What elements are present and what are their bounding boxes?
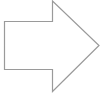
arrow-diagram — [0, 0, 107, 96]
right-arrow-shape — [5, 1, 100, 92]
diagram-canvas — [0, 0, 107, 96]
